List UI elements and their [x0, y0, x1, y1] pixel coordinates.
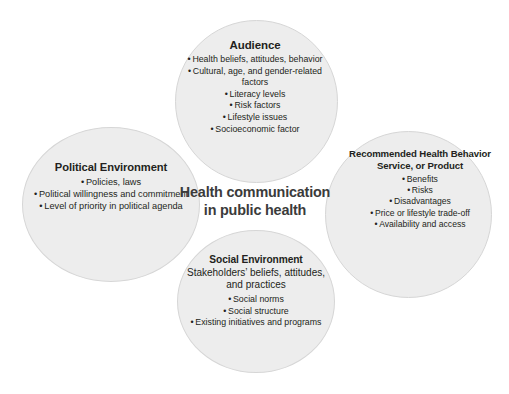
list-item: Risks	[341, 185, 499, 196]
label-audience: Audience Health beliefs, attitudes, beha…	[176, 38, 334, 135]
list-item: Risk factors	[176, 100, 334, 112]
top-caption	[4, 0, 304, 7]
list-item: Price or lifestyle trade-off	[341, 208, 499, 219]
audience-title: Audience	[176, 38, 334, 52]
list-item: Health beliefs, attitudes, behavior	[176, 54, 334, 66]
recommended-health-behavior-item-list: Benefits Risks Disadvantages Price or li…	[341, 174, 499, 231]
list-item: Literacy levels	[176, 89, 334, 101]
list-item: Social norms	[180, 294, 332, 306]
list-item: Benefits	[341, 174, 499, 185]
list-item: Availability and access	[341, 219, 499, 230]
list-item: Existing initiatives and programs	[180, 317, 332, 329]
list-item: Disadvantages	[341, 196, 499, 207]
diagram-canvas: Health communication in public health Au…	[0, 0, 509, 394]
audience-item-list: Health beliefs, attitudes, behavior Cult…	[176, 54, 334, 135]
list-item: Lifestyle issues	[176, 112, 334, 124]
recommended-health-behavior-title: Recommended Health Behavior Service, or …	[341, 148, 499, 172]
center-label-line1: Health communication	[165, 183, 345, 201]
list-item: Cultural, age, and gender-related factor…	[176, 66, 334, 89]
social-environment-item-list: Social norms Social structure Existing i…	[180, 294, 332, 329]
social-environment-title: Social Environment	[180, 254, 332, 267]
label-social-environment: Social Environment Stakeholders’ beliefs…	[180, 254, 332, 329]
political-environment-title: Political Environment	[28, 160, 194, 174]
center-label-line2: in public health	[165, 201, 345, 219]
center-label: Health communication in public health	[165, 183, 345, 219]
list-item: Social structure	[180, 306, 332, 318]
label-recommended-health-behavior: Recommended Health Behavior Service, or …	[341, 148, 499, 231]
social-environment-subtitle: Stakeholders’ beliefs, attitudes, and pr…	[180, 267, 332, 291]
list-item: Socioeconomic factor	[176, 124, 334, 136]
